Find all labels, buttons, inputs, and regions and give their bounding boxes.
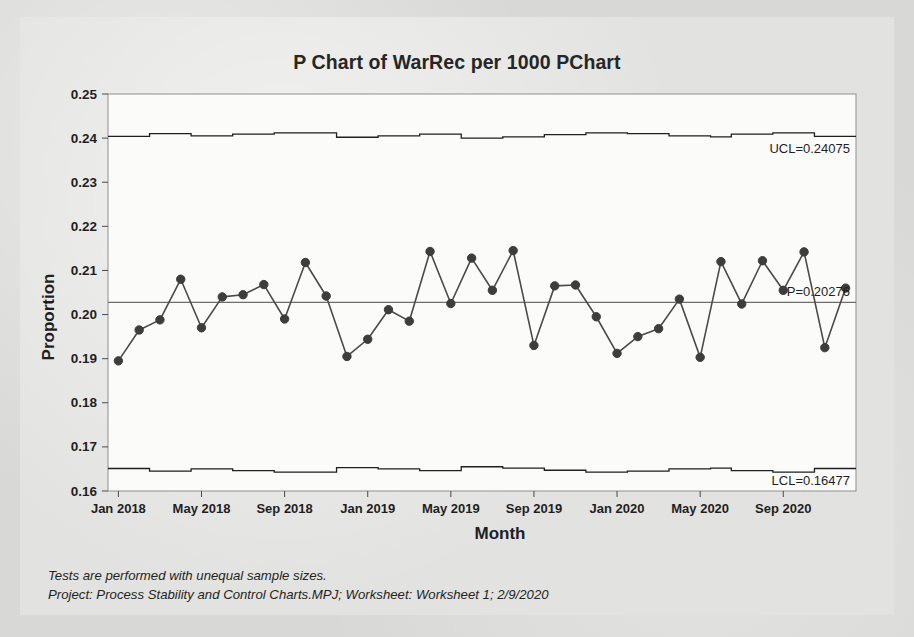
center-line-label: P=0.20276 [787,284,850,299]
data-point-marker[interactable] [530,341,538,349]
x-tick-label: May 2019 [422,501,480,516]
x-tick-label: Sep 2019 [506,501,562,516]
data-point-marker[interactable] [364,335,372,343]
data-point-marker[interactable] [322,292,330,300]
footnote-line-1: Tests are performed with unequal sample … [48,566,878,585]
data-point-marker[interactable] [717,257,725,265]
x-tick-label: Jan 2018 [91,501,146,516]
data-point-marker[interactable] [405,317,413,325]
x-axis-title: Month [475,524,526,543]
p-chart-svg: 0.250.240.230.220.210.200.190.180.170.16… [20,17,894,615]
footnote-line-2: Project: Process Stability and Control C… [48,585,878,604]
data-point-marker[interactable] [634,332,642,340]
data-point-marker[interactable] [384,306,392,314]
plot-frame [108,94,856,491]
footnote-block: Tests are performed with unequal sample … [48,566,878,604]
data-point-marker[interactable] [551,282,559,290]
data-point-marker[interactable] [177,275,185,283]
page-background: P Chart of WarRec per 1000 PChart 0.250.… [0,0,914,637]
data-point-marker[interactable] [260,280,268,288]
plot-background [108,94,856,491]
data-point-marker[interactable] [156,316,164,324]
data-point-marker[interactable] [467,254,475,262]
y-tick-label: 0.20 [71,307,97,322]
data-point-marker[interactable] [135,326,143,334]
lcl-label: LCL=0.16477 [772,473,850,488]
data-point-marker[interactable] [738,300,746,308]
y-tick-label: 0.25 [71,87,98,102]
data-point-marker[interactable] [509,246,517,254]
x-tick-label: Sep 2018 [256,501,312,516]
y-tick-label: 0.19 [71,351,97,366]
x-tick-label: Sep 2020 [755,501,811,516]
y-tick-label: 0.22 [71,219,97,234]
data-point-marker[interactable] [197,324,205,332]
data-point-marker[interactable] [675,295,683,303]
data-point-marker[interactable] [218,293,226,301]
data-point-marker[interactable] [592,313,600,321]
y-tick-label: 0.18 [71,395,98,410]
data-point-marker[interactable] [696,353,704,361]
data-point-marker[interactable] [821,343,829,351]
data-point-marker[interactable] [613,349,621,357]
chart-card: P Chart of WarRec per 1000 PChart 0.250.… [20,17,894,615]
data-point-marker[interactable] [280,315,288,323]
x-tick-label: May 2020 [671,501,729,516]
x-tick-label: Jan 2020 [590,501,645,516]
y-tick-label: 0.24 [71,131,98,146]
data-point-marker[interactable] [488,286,496,294]
data-point-marker[interactable] [114,357,122,365]
ucl-label: UCL=0.24075 [769,141,850,156]
y-axis-ticks: 0.250.240.230.220.210.200.190.180.170.16 [71,87,108,499]
data-point-marker[interactable] [239,291,247,299]
y-tick-label: 0.16 [71,484,98,499]
data-point-marker[interactable] [343,352,351,360]
y-tick-label: 0.23 [71,175,98,190]
x-axis-ticks: Jan 2018May 2018Sep 2018Jan 2019May 2019… [91,491,812,516]
data-point-marker[interactable] [654,324,662,332]
y-tick-label: 0.21 [71,263,98,278]
y-axis-title: Proportion [39,274,58,361]
data-point-marker[interactable] [571,281,579,289]
plot-area-wrapper: 0.250.240.230.220.210.200.190.180.170.16… [20,17,894,615]
data-point-marker[interactable] [758,257,766,265]
data-point-marker[interactable] [301,258,309,266]
y-tick-label: 0.17 [71,439,97,454]
x-tick-label: May 2018 [173,501,231,516]
x-tick-label: Jan 2019 [340,501,395,516]
data-point-marker[interactable] [447,299,455,307]
data-point-marker[interactable] [426,247,434,255]
data-point-marker[interactable] [800,248,808,256]
